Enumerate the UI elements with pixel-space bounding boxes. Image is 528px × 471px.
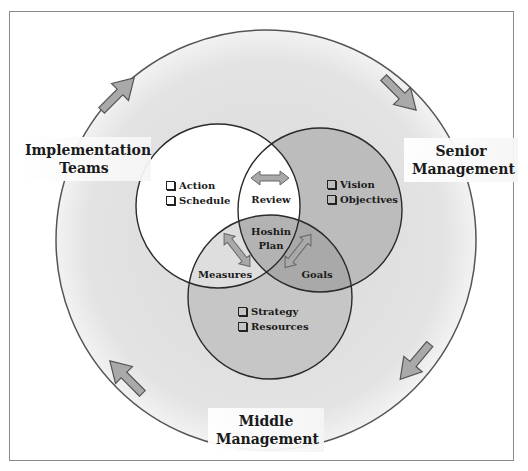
list-item: Strategy — [238, 304, 309, 319]
role-label-line: Implementation — [25, 141, 143, 159]
checkbox-icon — [238, 322, 247, 331]
center-label-line: Plan — [248, 239, 294, 253]
role-label-senior-management: Senior Management — [404, 138, 518, 182]
center-label-hoshin-plan: Hoshin Plan — [248, 225, 294, 253]
intersection-label-review: Review — [250, 193, 292, 207]
checkbox-icon — [327, 180, 336, 189]
list-item: Objectives — [327, 192, 398, 207]
checkbox-icon — [238, 307, 247, 316]
list-item: Resources — [238, 319, 309, 334]
role-label-implementation-teams: Implementation Teams — [17, 137, 151, 181]
role-label-line: Middle — [216, 412, 316, 430]
left-circle-items: Action Schedule — [166, 178, 230, 208]
intersection-label-goals: Goals — [295, 268, 339, 282]
role-label-middle-management: Middle Management — [208, 408, 324, 452]
center-label-line: Hoshin — [248, 225, 294, 239]
right-circle-items: Vision Objectives — [327, 177, 398, 207]
list-item: Schedule — [166, 193, 230, 208]
checkbox-icon — [166, 181, 175, 190]
role-label-line: Senior — [412, 142, 510, 160]
role-label-line: Management — [412, 160, 510, 178]
checkbox-icon — [166, 196, 175, 205]
bottom-circle-items: Strategy Resources — [238, 304, 309, 334]
list-item: Vision — [327, 177, 398, 192]
list-item: Action — [166, 178, 230, 193]
intersection-label-measures: Measures — [195, 268, 255, 282]
role-label-line: Management — [216, 430, 316, 448]
role-label-line: Teams — [25, 159, 143, 177]
checkbox-icon — [327, 195, 336, 204]
